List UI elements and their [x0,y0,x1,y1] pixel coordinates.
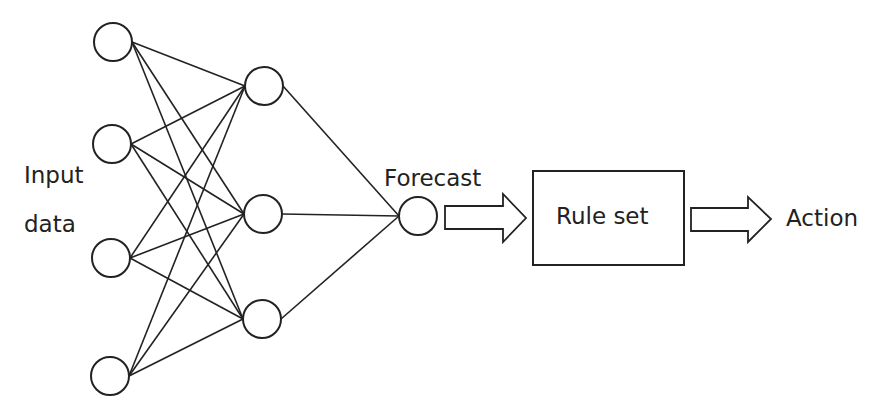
arrow-right-icon [445,194,526,242]
input-node-1 [94,23,132,61]
hidden-node-3 [243,300,281,338]
action-label: Action [786,205,858,231]
input-node-4 [91,357,129,395]
input-label-line1: Input [24,162,84,188]
hidden-output-connections [281,86,399,319]
arrow-right-icon [691,197,771,242]
rule-set-label: Rule set [556,203,649,229]
hidden-node-1 [245,67,283,105]
input-hidden-connections [129,42,245,376]
input-node-2 [93,125,131,163]
forecast-label: Forecast [384,165,481,191]
hidden-node-2 [244,195,282,233]
input-layer [91,23,132,395]
hidden-layer [243,67,283,338]
input-label-line2: data [24,211,76,237]
input-node-3 [92,239,130,277]
neural-network-diagram: Input data Forecast Rule set Action [0,0,887,419]
output-node [399,197,437,235]
